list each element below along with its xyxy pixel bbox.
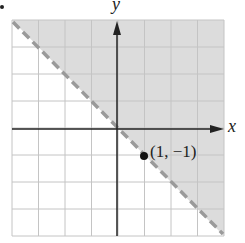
y-axis-label: y — [112, 0, 120, 15]
graph — [0, 0, 245, 243]
x-axis-label: x — [228, 116, 236, 137]
point-marker — [140, 152, 148, 160]
point-label: (1, −1) — [150, 142, 196, 162]
